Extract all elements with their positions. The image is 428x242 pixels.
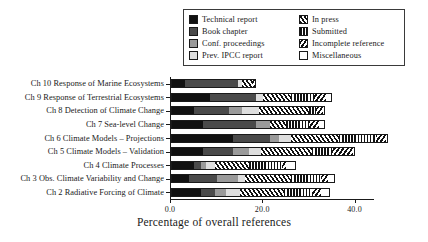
y-axis-category-label: Ch 8 Detection of Climate Change <box>46 106 164 115</box>
y-axis-category-label: Ch 3 Obs. Climate Variability and Change <box>20 174 164 183</box>
bar-segment <box>229 106 243 115</box>
legend-label-incomplete-reference: Incomplete reference <box>312 39 384 48</box>
legend-item-conf-proceedings: Conf. proceedings <box>189 37 297 49</box>
legend-item-submitted: Submitted <box>299 25 403 37</box>
bar-segment <box>242 79 251 88</box>
y-axis-tick <box>166 179 170 180</box>
bar-segment <box>215 161 250 170</box>
bar-segment <box>386 134 388 143</box>
bar-segment <box>242 106 258 115</box>
legend-label-book-chapter: Book chapter <box>202 27 248 36</box>
bar-row <box>171 174 335 183</box>
bar-segment <box>171 174 189 183</box>
technical-report-swatch <box>189 15 198 24</box>
bar-segment <box>326 93 333 102</box>
bar-segment <box>332 147 353 156</box>
bar-segment <box>376 134 385 143</box>
bar-row <box>171 161 296 170</box>
bar-segment <box>238 174 245 183</box>
bar-segment <box>171 106 194 115</box>
x-axis-line <box>170 199 374 200</box>
bar-segment <box>270 120 286 129</box>
y-axis-category-label: Ch 10 Response of Marine Ecosystems <box>31 79 164 88</box>
conf-proceedings-swatch <box>189 39 198 48</box>
x-axis-tick-label: 20.0 <box>255 205 270 214</box>
x-axis-tick <box>355 199 356 203</box>
legend-item-incomplete-reference: Incomplete reference <box>299 37 403 49</box>
bar-segment <box>201 188 215 197</box>
bar-segment <box>210 93 256 102</box>
legend-label-technical-report: Technical report <box>202 15 258 24</box>
y-axis-category-label: Ch 4 Climate Processes <box>84 161 164 170</box>
bar-segment <box>263 93 291 102</box>
bar-segment <box>291 93 314 102</box>
bar-row <box>171 188 330 197</box>
bar-segment <box>291 174 321 183</box>
legend-label-miscellaneous: Miscellaneous <box>312 51 361 60</box>
bar-segment <box>249 147 261 156</box>
bar-segment <box>279 134 291 143</box>
stacked-bar-chart: Technical report In press Book chapter S… <box>0 0 428 242</box>
bar-segment <box>309 120 318 129</box>
plot-area: 0.020.040.0Ch 10 Response of Marine Ecos… <box>170 77 373 199</box>
y-axis-tick <box>166 84 170 85</box>
bar-segment <box>171 134 233 143</box>
in-press-swatch <box>299 15 308 24</box>
legend-item-book-chapter: Book chapter <box>189 25 297 37</box>
bar-segment <box>203 147 233 156</box>
y-axis-tick <box>166 124 170 125</box>
bar-segment <box>171 147 203 156</box>
bar-segment <box>240 188 284 197</box>
bar-row <box>171 147 355 156</box>
bar-row <box>171 134 388 143</box>
bar-segment <box>171 188 201 197</box>
bar-segment <box>314 93 326 102</box>
bar-row <box>171 79 256 88</box>
bar-row <box>171 106 325 115</box>
legend-label-submitted: Submitted <box>312 27 347 36</box>
legend-item-prev-ipcc-report: Prev. IPCC report <box>189 49 297 61</box>
bar-segment <box>249 161 281 170</box>
bar-segment <box>215 188 227 197</box>
bar-segment <box>286 120 309 129</box>
y-axis-tick <box>166 138 170 139</box>
bar-segment <box>256 120 270 129</box>
x-axis-tick <box>262 199 263 203</box>
y-axis-category-label: Ch 5 Climate Models – Validation <box>48 147 164 156</box>
bar-segment <box>233 147 249 156</box>
bar-segment <box>353 147 355 156</box>
bar-row <box>171 120 325 129</box>
legend-item-miscellaneous: Miscellaneous <box>299 49 403 61</box>
bar-segment <box>323 106 325 115</box>
bar-segment <box>312 147 333 156</box>
prev-ipcc-report-swatch <box>189 51 198 60</box>
y-axis-tick <box>166 165 170 166</box>
bar-segment <box>171 93 210 102</box>
bar-segment <box>319 120 326 129</box>
bar-segment <box>203 120 256 129</box>
bar-segment <box>316 106 323 115</box>
bar-segment <box>284 188 312 197</box>
incomplete-reference-swatch <box>299 39 308 48</box>
y-axis-category-label: Ch 7 Sea-level Change <box>86 120 164 129</box>
y-axis-tick <box>166 111 170 112</box>
y-axis-tick <box>166 152 170 153</box>
bar-segment <box>339 134 376 143</box>
bar-segment <box>261 147 312 156</box>
legend-label-in-press: In press <box>312 15 339 24</box>
x-axis-title: Percentage of overall references <box>0 216 428 228</box>
bar-segment <box>252 79 257 88</box>
bar-segment <box>233 134 270 143</box>
bar-segment <box>270 134 279 143</box>
bar-segment <box>321 188 330 197</box>
y-axis-category-label: Ch 6 Climate Models – Projections <box>44 134 164 143</box>
bar-segment <box>286 161 295 170</box>
bar-segment <box>321 174 328 183</box>
bar-row <box>171 93 332 102</box>
bar-segment <box>194 106 229 115</box>
y-axis-tick <box>166 97 170 98</box>
bar-segment <box>189 174 217 183</box>
legend-item-technical-report: Technical report <box>189 13 297 25</box>
submitted-swatch <box>299 27 308 36</box>
y-axis-category-label: Ch 2 Radiative Forcing of Climate <box>46 188 164 197</box>
